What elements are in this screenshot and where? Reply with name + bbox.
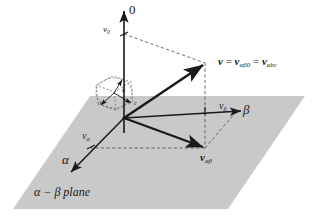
- axis-zero-label: 0: [129, 3, 136, 16]
- v-beta-subscript: β: [223, 105, 226, 112]
- v-zero-subscript: 0: [107, 29, 110, 35]
- v-zero-label: v0: [103, 25, 110, 35]
- main-vector-term2-subscript: αβ0: [240, 61, 251, 68]
- v-alpha-label: vα: [82, 131, 90, 142]
- v-alpha-beta-subscript: αβ: [205, 157, 212, 164]
- abc-axis-b-label: b: [122, 87, 125, 93]
- v-beta-label: vβ: [219, 101, 227, 112]
- main-vector-equals-1: =: [223, 55, 235, 67]
- dashed-v0-to-tip: [124, 34, 205, 63]
- main-vector-equals-2: =: [250, 55, 262, 67]
- main-vector-term3-subscript: abc: [267, 61, 277, 68]
- abc-axis-b: [114, 80, 122, 93]
- axis-beta-label: β: [243, 103, 249, 116]
- abc-axis-a-label: a: [100, 99, 103, 105]
- plane-caption: α − β plane: [34, 186, 90, 198]
- origin-point: [122, 116, 125, 119]
- main-vector-label: v = vαβ0 = vabc: [218, 56, 277, 69]
- v-alpha-subscript: α: [86, 135, 89, 142]
- abc-axis-c-label: c: [134, 100, 137, 106]
- figure-root: 0 v0 v = vαβ0 = vabc vβ β vα α vαβ α − β…: [0, 0, 318, 222]
- axis-alpha-label: α: [62, 153, 69, 166]
- v-alpha-beta-label: vαβ: [200, 152, 212, 165]
